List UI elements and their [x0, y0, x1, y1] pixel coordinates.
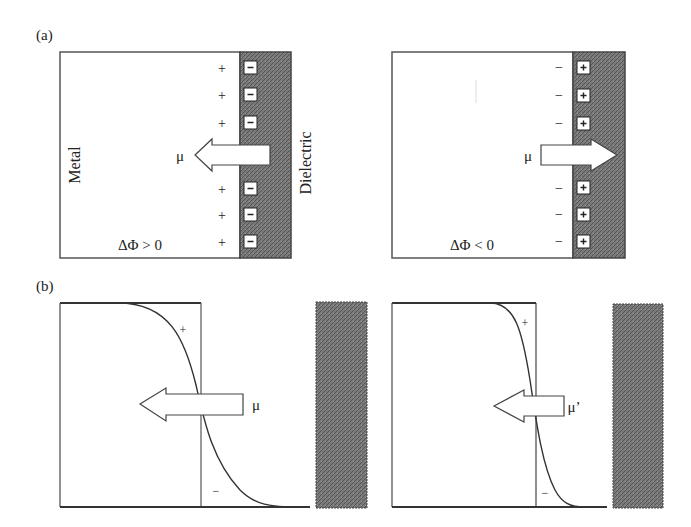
metal-label: Metal: [66, 146, 83, 184]
panel-a-label: (a): [36, 27, 53, 44]
dipole-label: μ: [252, 397, 260, 413]
panel-b-label: (b): [36, 278, 54, 295]
dipole-label: μ’: [567, 399, 580, 415]
panel-b-right: + − μ’: [392, 303, 663, 508]
dipole-arrow-left-icon: [140, 388, 243, 421]
plus-label: +: [180, 323, 187, 337]
panel-a-right: − − − − − − μ ΔΦ < 0: [392, 52, 625, 258]
svg-text:+: +: [218, 61, 226, 76]
svg-text:+: +: [218, 208, 226, 223]
dielectric-label: Dielectric: [297, 131, 314, 194]
svg-text:+: +: [218, 235, 226, 250]
dipole-label: μ: [176, 148, 184, 164]
svg-text:−: −: [555, 60, 563, 75]
dielectric-region: [316, 302, 367, 508]
dipole-label: μ: [524, 148, 532, 164]
condition-label: ΔΦ < 0: [450, 237, 494, 253]
svg-text:−: −: [555, 234, 563, 249]
panel-a-left: + + + + + + μ Metal Dielectric ΔΦ > 0: [60, 52, 314, 258]
dipole-arrow-left-icon: [494, 390, 564, 422]
dielectric-region: [613, 304, 663, 508]
minus-label: −: [542, 486, 549, 500]
minus-label: −: [213, 484, 220, 498]
svg-text:+: +: [218, 88, 226, 103]
svg-text:+: +: [218, 182, 226, 197]
svg-text:−: −: [555, 207, 563, 222]
plus-label: +: [522, 316, 529, 330]
condition-label: ΔΦ > 0: [118, 237, 162, 253]
panel-b-left: + − μ: [60, 302, 367, 508]
svg-text:−: −: [555, 181, 563, 196]
svg-text:+: +: [218, 116, 226, 131]
figure-canvas: (a) + + + + + + μ Metal Dielectric ΔΦ > …: [0, 0, 691, 527]
svg-text:−: −: [555, 116, 563, 131]
svg-text:−: −: [555, 88, 563, 103]
